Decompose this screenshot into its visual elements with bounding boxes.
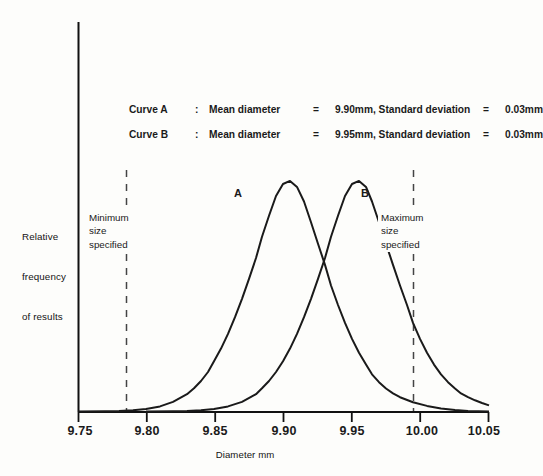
curve-a-mean-label: Mean diameter	[209, 97, 313, 122]
maximum-size-label-line3: specified	[381, 238, 423, 251]
curve-a-sd-value: 0.03mm	[505, 97, 543, 122]
curve-b-label: B	[361, 187, 369, 199]
curve-b-colon: :	[195, 122, 209, 147]
curve-a-colon: :	[195, 97, 209, 122]
y-axis-title-line1: Relative	[22, 230, 66, 243]
x-axis-title: Diameter mm	[216, 449, 275, 460]
curve-b-path	[146, 181, 489, 412]
curve-a-name: Curve A	[129, 97, 195, 122]
maximum-size-label: Maximum size specified	[378, 210, 426, 252]
x-tick-label-2: 9.85	[202, 424, 227, 438]
x-axis-ticks	[79, 412, 489, 422]
curve-b-equals-1: =	[313, 122, 335, 147]
x-tick-label-0: 9.75	[67, 424, 92, 438]
curve-b-mean-value: 9.95mm, Standard deviation	[335, 122, 483, 147]
maximum-size-label-line1: Maximum	[381, 211, 423, 224]
curve-b-name: Curve B	[129, 122, 195, 147]
x-tick-label-3: 9.90	[271, 424, 296, 438]
curve-b-equals-2: =	[483, 122, 505, 147]
curve-specifications: Curve A : Mean diameter = 9.90mm, Standa…	[129, 97, 543, 147]
curve-a-mean-value: 9.90mm, Standard deviation	[335, 97, 483, 122]
minimum-size-label: Minimum size specified	[86, 210, 132, 252]
curve-a-path	[78, 181, 489, 412]
y-axis-title-line2: frequency	[22, 270, 66, 283]
curve-b-mean-label: Mean diameter	[209, 122, 313, 147]
x-tick-label-4: 9.95	[339, 424, 364, 438]
curve-a-equals-1: =	[313, 97, 335, 122]
maximum-size-label-line2: size	[381, 224, 423, 237]
x-tick-label-1: 9.80	[134, 424, 159, 438]
y-axis-title: Relative frequency of results	[22, 203, 66, 350]
curve-b-spec-row: Curve B : Mean diameter = 9.95mm, Standa…	[129, 122, 543, 147]
curve-a-label: A	[234, 187, 242, 199]
curve-b-sd-value: 0.03mm	[505, 122, 543, 147]
x-tick-label-5: 10.00	[406, 424, 438, 438]
minimum-size-label-line3: specified	[89, 238, 129, 251]
x-tick-label-6: 10.05	[468, 424, 500, 438]
minimum-size-label-line2: size	[89, 224, 129, 237]
y-axis-title-line3: of results	[22, 310, 66, 323]
curve-a-spec-row: Curve A : Mean diameter = 9.90mm, Standa…	[129, 97, 543, 122]
minimum-size-label-line1: Minimum	[89, 211, 129, 224]
curve-a-equals-2: =	[483, 97, 505, 122]
